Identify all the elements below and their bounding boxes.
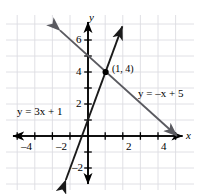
y-tick-label-4: 4 <box>76 66 82 77</box>
y-tick-label-6: 6 <box>76 34 82 45</box>
y-axis-name: y <box>89 12 94 23</box>
grid-lines <box>6 15 194 190</box>
y-tick-label-2: 2 <box>76 98 82 109</box>
x-tick-label--2: –2 <box>56 141 67 152</box>
graph-figure: –4 –2 2 4 6 4 2 –2 y x y = 3x + 1 y = –x… <box>0 0 199 194</box>
line-y-equals-3x-plus-1 <box>66 26 123 180</box>
x-tick-label-2: 2 <box>126 141 132 152</box>
y-tick-label--2: –2 <box>72 162 83 173</box>
equation-label-line1: y = 3x + 1 <box>17 106 62 117</box>
x-axis-name: x <box>186 130 191 141</box>
intersection-point-marker <box>103 69 109 75</box>
equation-label-line2: y = –x + 5 <box>138 88 183 99</box>
intersection-point-label: (1, 4) <box>112 64 134 74</box>
x-tick-label--4: –4 <box>21 141 32 152</box>
x-tick-label-4: 4 <box>161 141 167 152</box>
